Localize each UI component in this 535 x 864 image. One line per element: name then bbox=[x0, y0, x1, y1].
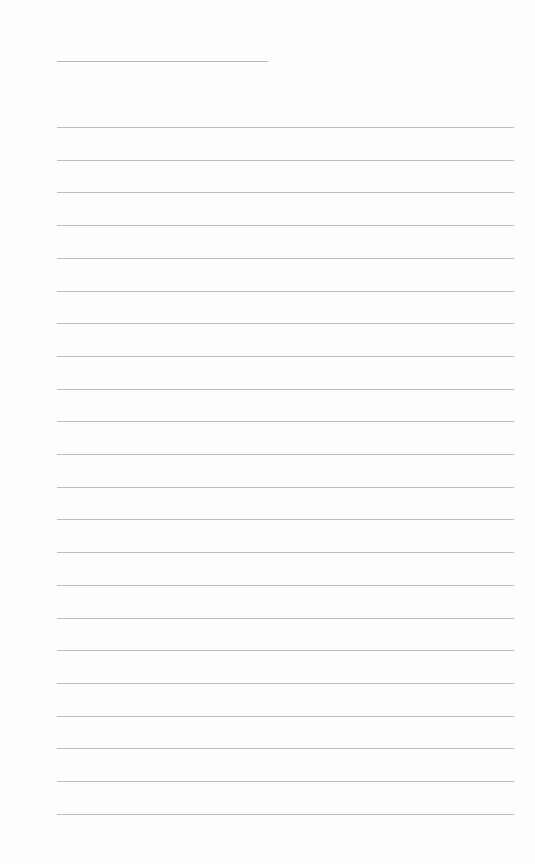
ruled-line bbox=[57, 618, 514, 619]
ruled-line bbox=[57, 552, 514, 553]
ruled-line bbox=[57, 356, 514, 357]
ruled-line bbox=[57, 225, 514, 226]
title-writing-line bbox=[57, 61, 268, 62]
ruled-line bbox=[57, 160, 514, 161]
ruled-line bbox=[57, 291, 514, 292]
ruled-line bbox=[57, 323, 514, 324]
ruled-line bbox=[57, 421, 514, 422]
ruled-line bbox=[57, 716, 514, 717]
ruled-line bbox=[57, 487, 514, 488]
ruled-line bbox=[57, 814, 514, 815]
ruled-line bbox=[57, 650, 514, 651]
ruled-line bbox=[57, 258, 514, 259]
ruled-line bbox=[57, 781, 514, 782]
ruled-line bbox=[57, 748, 514, 749]
ruled-line bbox=[57, 519, 514, 520]
ruled-line bbox=[57, 127, 514, 128]
ruled-line bbox=[57, 585, 514, 586]
ruled-page bbox=[0, 0, 535, 864]
ruled-line bbox=[57, 454, 514, 455]
ruled-line bbox=[57, 683, 514, 684]
ruled-line bbox=[57, 192, 514, 193]
ruled-line bbox=[57, 389, 514, 390]
